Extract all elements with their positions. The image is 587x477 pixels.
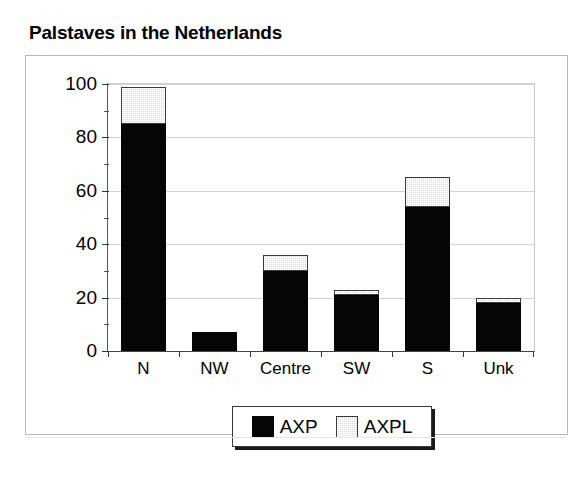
y-axis-tick — [102, 298, 109, 299]
x-axis-tick — [250, 351, 251, 357]
x-axis-label: NW — [200, 359, 228, 379]
chart-title: Palstaves in the Netherlands — [29, 22, 282, 44]
scan-artifact — [26, 437, 566, 438]
bar-segment-axp[interactable] — [476, 303, 520, 351]
y-axis-label: 100 — [65, 73, 97, 95]
bar-group[interactable] — [334, 84, 378, 351]
bar-segment-axp[interactable] — [192, 332, 236, 351]
y-axis-tick — [102, 244, 109, 245]
x-axis-label: N — [137, 359, 149, 379]
y-axis-minor-tick — [104, 164, 109, 165]
gridline — [108, 137, 534, 138]
legend-item-axpl: AXPL — [336, 416, 413, 438]
bar-segment-axpl[interactable] — [476, 298, 520, 303]
x-axis-label: SW — [343, 359, 370, 379]
gridline — [108, 244, 534, 245]
y-axis-tick — [102, 84, 109, 85]
bar-segment-axpl[interactable] — [121, 87, 165, 124]
x-axis-tick — [533, 351, 534, 357]
bar-group[interactable] — [121, 84, 165, 351]
bar-segment-axpl[interactable] — [405, 177, 449, 206]
y-axis-label: 60 — [76, 180, 97, 202]
y-axis-tick — [102, 137, 109, 138]
bar-group[interactable] — [476, 84, 520, 351]
y-axis-tick — [102, 191, 109, 192]
bar-segment-axpl[interactable] — [334, 290, 378, 295]
plot-area: 020406080100NNWCentreSWSUnk — [107, 83, 535, 352]
bar-group[interactable] — [263, 84, 307, 351]
x-axis-label: Unk — [483, 359, 513, 379]
y-axis-minor-tick — [104, 271, 109, 272]
y-axis-label: 20 — [76, 287, 97, 309]
x-axis-tick — [321, 351, 322, 357]
legend-item-label: AXPL — [364, 416, 413, 438]
bar-segment-axpl[interactable] — [263, 255, 307, 271]
y-axis-minor-tick — [104, 324, 109, 325]
gridline — [108, 191, 534, 192]
x-axis-label: Centre — [260, 359, 311, 379]
bar-group[interactable] — [192, 84, 236, 351]
bar-segment-axp[interactable] — [263, 271, 307, 351]
x-axis-tick — [463, 351, 464, 357]
bar-segment-axp[interactable] — [121, 124, 165, 351]
y-axis-label: 0 — [86, 340, 97, 362]
chart-legend: AXP AXPL — [232, 406, 432, 447]
bar-group[interactable] — [405, 84, 449, 351]
x-axis-label: S — [422, 359, 433, 379]
x-axis-tick — [179, 351, 180, 357]
y-axis-label: 80 — [76, 126, 97, 148]
bar-segment-axp[interactable] — [405, 207, 449, 351]
legend-item-label: AXP — [280, 416, 318, 438]
x-axis-tick — [108, 351, 109, 357]
gridline — [108, 84, 534, 85]
gridline — [108, 298, 534, 299]
legend-item-axp: AXP — [252, 416, 318, 438]
y-axis-minor-tick — [104, 111, 109, 112]
gray-dotted-square-swatch — [336, 416, 358, 438]
black-square-swatch — [252, 416, 274, 438]
y-axis-label: 40 — [76, 233, 97, 255]
bar-segment-axp[interactable] — [334, 295, 378, 351]
y-axis-minor-tick — [104, 218, 109, 219]
x-axis-tick — [392, 351, 393, 357]
